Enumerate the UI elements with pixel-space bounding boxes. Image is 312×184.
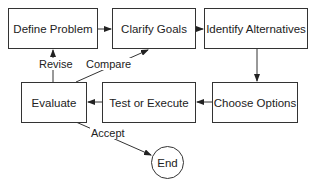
node-end: End: [151, 146, 184, 179]
edge-label-compare: Compare: [85, 58, 132, 70]
node-clarify-goals: Clarify Goals: [112, 8, 196, 49]
node-label: Define Problem: [13, 23, 92, 35]
node-define-problem: Define Problem: [8, 8, 98, 49]
edge-label-revise: Revise: [38, 58, 74, 70]
node-label: Choose Options: [214, 97, 296, 109]
node-label: Identify Alternatives: [206, 23, 306, 35]
node-label: End: [157, 157, 177, 169]
node-evaluate: Evaluate: [21, 82, 87, 123]
node-label: Test or Execute: [109, 97, 188, 109]
node-label: Evaluate: [32, 97, 77, 109]
node-test-or-execute: Test or Execute: [102, 82, 196, 123]
node-choose-options: Choose Options: [212, 82, 298, 123]
edge-label-accept: Accept: [90, 127, 126, 139]
node-label: Clarify Goals: [121, 23, 187, 35]
node-identify-alternatives: Identify Alternatives: [204, 8, 308, 49]
